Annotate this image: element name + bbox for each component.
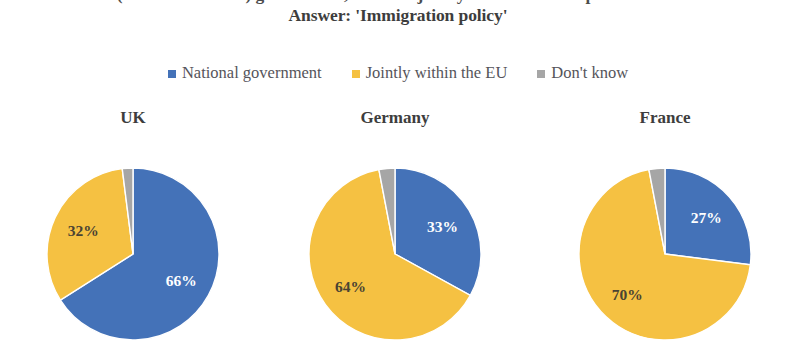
legend-swatch-icon-dont-know [537, 70, 545, 78]
pie-slice-label: 33% [427, 218, 458, 235]
legend-label-national-government: National government [182, 64, 322, 82]
pie-chart-uk: 66%32%2% [13, 154, 253, 354]
legend-swatch-icon-national-government [168, 70, 176, 78]
pie-panel-title-germany: Germany [275, 108, 515, 128]
pie-panel-france: France 27%70%3% [545, 108, 785, 360]
legend-swatch-icon-jointly-within-the-eu [352, 70, 360, 78]
pie-chart-france: 27%70%3% [545, 154, 785, 354]
pie-slice-label: 64% [335, 278, 366, 295]
pie-panel-title-france: France [545, 108, 785, 128]
pie-panel-title-uk: UK [13, 108, 253, 128]
pie-chart-figure: (NATIONALITY) government, or made jointl… [0, 0, 796, 360]
chart-legend: National government Jointly within the E… [0, 64, 796, 82]
legend-item-national-government[interactable]: National government [168, 64, 322, 82]
legend-label-jointly-within-the-eu: Jointly within the EU [366, 64, 508, 82]
legend-label-dont-know: Don't know [551, 64, 628, 82]
pie-slice-label: 32% [68, 222, 99, 239]
pie-slice-label: 70% [612, 286, 643, 303]
pie-slice-label: 66% [166, 272, 197, 289]
pie-slice-label: 27% [691, 209, 722, 226]
legend-item-dont-know[interactable]: Don't know [537, 64, 628, 82]
chart-title-line-2: Answer: 'Immigration policy' [0, 5, 796, 26]
pie-panel-uk: UK 66%32%2% [13, 108, 253, 360]
pie-panel-germany: Germany 33%64%3% [275, 108, 515, 360]
legend-item-jointly-within-the-eu[interactable]: Jointly within the EU [352, 64, 508, 82]
chart-title: (NATIONALITY) government, or made jointl… [0, 0, 796, 26]
pie-panels-row: UK 66%32%2% Germany 33%64%3% France 27%7… [0, 108, 796, 360]
pie-chart-germany: 33%64%3% [275, 154, 515, 354]
chart-title-line-1: (NATIONALITY) government, or made jointl… [0, 0, 796, 5]
